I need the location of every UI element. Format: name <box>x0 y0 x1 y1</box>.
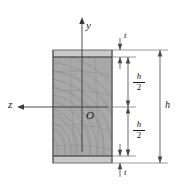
dimension-t-bottom-arrows <box>118 150 123 169</box>
half-depth-upper-numerator: h <box>133 72 145 81</box>
dimension-t-top-arrows <box>118 44 123 63</box>
half-depth-lower-label: h 2 <box>133 120 145 141</box>
half-depth-upper-label: h 2 <box>133 72 145 93</box>
thickness-bottom-label: t <box>124 168 127 177</box>
beam-cross-section-figure: y z O t t h 2 h 2 h <box>0 0 179 186</box>
thickness-top-label: t <box>124 31 127 40</box>
total-depth-label: h <box>165 100 170 110</box>
y-axis-label: y <box>86 20 91 31</box>
origin-label: O <box>86 110 94 121</box>
half-depth-upper-denominator: 2 <box>133 83 145 92</box>
half-depth-lower-numerator: h <box>133 120 145 129</box>
z-axis-label: z <box>8 99 12 110</box>
dimension-total-depth <box>158 50 163 163</box>
dimension-half-depth-lower <box>126 107 131 156</box>
half-depth-lower-denominator: 2 <box>133 131 145 140</box>
dimension-half-depth-upper <box>126 57 131 107</box>
